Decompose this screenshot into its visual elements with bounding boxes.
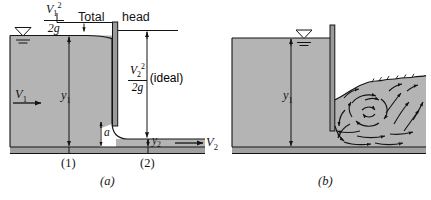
velocity-head-2-numerator: V22 <box>128 63 147 81</box>
station-1-label: (1) <box>61 157 76 170</box>
velocity-head-1-denominator: 2g <box>44 21 64 34</box>
water-body-upstream-b <box>232 38 330 147</box>
figure-root: V12 2g Total head V1 y1 V22 2g (ideal) a… <box>0 0 431 200</box>
ideal-label: (ideal) <box>150 72 183 84</box>
inlet-velocity-label: V1 <box>15 88 27 103</box>
sluice-gate-plate-b <box>330 25 335 131</box>
depth-y1-label-a: y1 <box>61 89 71 104</box>
channel-bed-a <box>10 147 205 154</box>
velocity-head-2-denominator: 2g <box>128 81 147 94</box>
sluice-gate-plate-a <box>113 22 118 126</box>
velocity-head-1-fraction: V12 2g <box>44 2 64 34</box>
channel-bed-b <box>232 147 426 154</box>
panel-b-graphics <box>232 25 426 154</box>
velocity-head-2-fraction: V22 2g <box>128 63 147 93</box>
outlet-velocity-label: V2 <box>206 136 218 151</box>
station-2-label: (2) <box>140 157 155 170</box>
head-label: head <box>122 11 150 24</box>
velocity-head-1-numerator: V12 <box>44 2 64 21</box>
panel-a-caption: (a) <box>100 175 115 188</box>
depth-y2-label: y2 <box>152 135 161 149</box>
total-head-label: Total <box>78 11 104 24</box>
velocity-head-2-group: V22 2g (ideal) <box>128 63 183 93</box>
gate-opening-label: a <box>104 127 110 139</box>
panel-b-caption: (b) <box>318 175 333 188</box>
depth-y1-label-b: y1 <box>283 89 293 104</box>
